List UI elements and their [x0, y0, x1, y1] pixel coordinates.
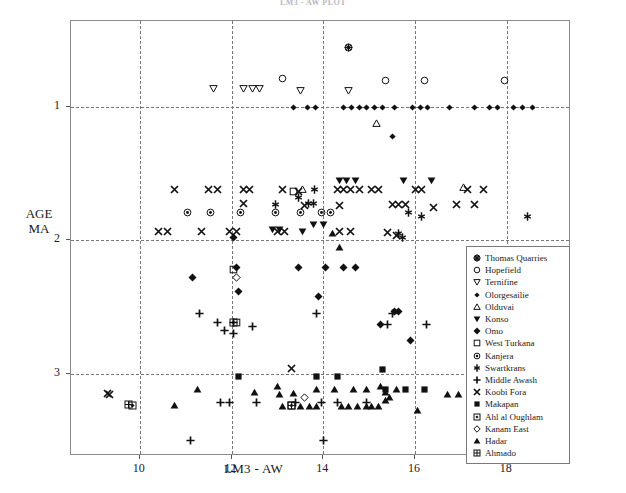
data-point	[443, 390, 452, 399]
gridline-horizontal	[71, 240, 569, 241]
data-point	[417, 212, 426, 221]
data-point	[105, 390, 114, 399]
legend-item-label: Koobi Fora	[484, 386, 526, 398]
data-point	[163, 227, 172, 236]
data-point	[204, 185, 213, 194]
data-point	[479, 185, 488, 194]
data-point	[383, 228, 392, 237]
x-tick-label: 16	[401, 461, 427, 476]
legend-item[interactable]: Hopefield	[470, 264, 566, 276]
filled-square-icon	[470, 398, 484, 410]
legend-item-label: Konso	[484, 313, 509, 325]
data-point	[349, 385, 358, 394]
data-point	[234, 287, 243, 296]
data-point	[294, 263, 303, 272]
data-point	[310, 185, 319, 194]
data-point	[401, 385, 410, 394]
data-point	[374, 402, 383, 411]
data-point	[287, 401, 296, 410]
chart-title: LM3 - AW PLOT	[0, 0, 626, 6]
data-point	[406, 336, 415, 345]
legend-item[interactable]: Makapan	[470, 398, 566, 410]
legend-item-label: Ternifine	[484, 276, 518, 288]
gridline-horizontal	[71, 107, 569, 108]
data-point	[296, 86, 305, 95]
legend-item[interactable]: Swartkrans	[470, 362, 566, 374]
data-point	[417, 185, 426, 194]
legend-item-label: Middle Awash	[484, 374, 537, 386]
legend-item[interactable]: Olduvai	[470, 301, 566, 313]
y-tick-label: 2	[38, 231, 60, 246]
data-point	[353, 402, 362, 411]
legend-item[interactable]: West Turkana	[470, 337, 566, 349]
legend-item-label: Makapan	[484, 398, 519, 410]
y-axis-label-line1: AGE	[12, 206, 66, 221]
legend-item[interactable]: Ternifine	[470, 276, 566, 288]
data-point	[294, 187, 303, 196]
data-point	[278, 402, 287, 411]
x-tick-label: 10	[126, 461, 152, 476]
data-point	[232, 263, 241, 272]
data-point	[362, 402, 371, 411]
legend: Thomas QuarriesHopefieldTernifineOlorges…	[466, 246, 570, 464]
data-point	[335, 176, 344, 185]
data-point	[385, 393, 394, 402]
data-point	[344, 402, 353, 411]
legend-item[interactable]: Kanjera	[470, 350, 566, 362]
data-point	[248, 322, 257, 331]
circle-dot-icon	[470, 350, 484, 362]
data-point	[344, 43, 353, 52]
data-point	[294, 193, 303, 202]
filled-down-triangle-icon	[470, 313, 484, 325]
data-point	[335, 243, 344, 252]
data-point	[346, 185, 355, 194]
data-point	[287, 364, 296, 373]
data-point	[271, 200, 280, 209]
data-point	[367, 402, 376, 411]
legend-item[interactable]: Ahl al Oughlam	[470, 410, 566, 422]
data-point	[330, 385, 339, 394]
legend-item[interactable]: Kanam East	[470, 423, 566, 435]
data-point	[273, 227, 282, 236]
data-point	[394, 229, 403, 238]
open-up-triangle-icon	[470, 301, 484, 313]
gridline-vertical	[323, 21, 324, 454]
data-point	[278, 185, 287, 194]
data-point	[362, 385, 371, 394]
legend-item[interactable]: Middle Awash	[470, 374, 566, 386]
open-square-icon	[470, 337, 484, 349]
legend-item[interactable]: Konso	[470, 313, 566, 325]
data-point	[388, 200, 397, 209]
data-point	[305, 402, 314, 411]
data-point	[213, 185, 222, 194]
data-point	[333, 398, 342, 407]
data-point	[236, 208, 245, 217]
data-point	[291, 398, 300, 407]
data-point	[470, 200, 479, 209]
open-diamond-icon	[470, 423, 484, 435]
data-point	[339, 263, 348, 272]
data-point	[197, 227, 206, 236]
grid-square-icon	[470, 447, 484, 459]
data-point	[376, 320, 385, 329]
data-point	[420, 385, 429, 394]
data-point	[381, 388, 390, 397]
data-point	[273, 382, 282, 391]
legend-item[interactable]: Olorgesailie	[470, 289, 566, 301]
legend-item[interactable]: Koobi Fora	[470, 386, 566, 398]
legend-item[interactable]: Hadar	[470, 435, 566, 447]
legend-item[interactable]: Thomas Quarries	[470, 252, 566, 264]
legend-item-label: Hadar	[484, 435, 507, 447]
x-tick-label: 14	[309, 461, 335, 476]
plus-icon	[470, 374, 484, 386]
legend-item[interactable]: Ahmado	[470, 447, 566, 459]
data-point	[248, 84, 257, 93]
legend-item-label: Omo	[484, 325, 503, 337]
data-point	[381, 76, 390, 85]
data-point	[128, 401, 137, 410]
data-point	[381, 396, 390, 405]
legend-item[interactable]: Omo	[470, 325, 566, 337]
data-point	[388, 309, 397, 318]
data-point	[188, 273, 197, 282]
data-point	[452, 200, 461, 209]
